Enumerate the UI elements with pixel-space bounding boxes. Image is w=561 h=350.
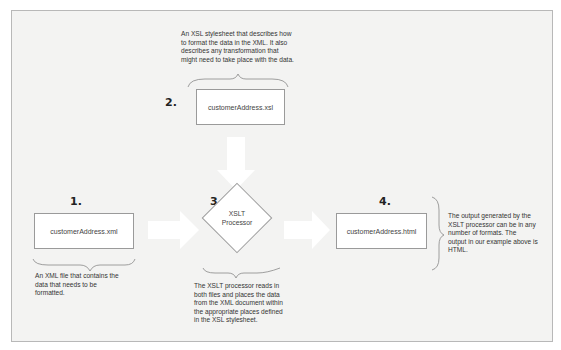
arrow-right-icon — [148, 211, 199, 249]
brace-bottom-icon — [33, 259, 135, 271]
label-line: XSLT — [206, 209, 268, 218]
desc-line: HTML. — [448, 246, 548, 255]
step-4-number: 4. — [379, 195, 391, 208]
desc-line: The output generated by the — [448, 212, 548, 221]
step-1-description: An XML file that contains the data that … — [35, 272, 145, 298]
desc-line: to format the data in the XML. It also — [181, 39, 341, 48]
brace-top-icon — [188, 74, 288, 87]
desc-line: might need to take place with the data. — [181, 56, 341, 65]
desc-line: An XML file that contains the — [35, 272, 145, 281]
brace-right-icon — [432, 197, 444, 270]
label-line: Processor — [206, 218, 268, 227]
desc-line: from the XML document within — [194, 299, 304, 308]
xsl-file-box[interactable]: customerAddress.xsl — [196, 89, 285, 125]
xsl-file-label: customerAddress.xsl — [208, 104, 273, 111]
step-2-description: An XSL stylesheet that describes how to … — [181, 30, 341, 64]
brace-bottom-icon — [203, 268, 280, 278]
desc-line: both files and places the data — [194, 291, 304, 300]
html-file-label: customerAddress.html — [347, 228, 417, 235]
step-3-description: The XSLT processor reads in both files a… — [194, 282, 304, 325]
desc-line: The XSLT processor reads in — [194, 282, 304, 291]
desc-line: XSLT processor can be in any — [448, 221, 548, 230]
desc-line: the appropriate places defined — [194, 308, 304, 317]
arrow-right-icon — [284, 211, 330, 249]
desc-line: data that needs to be — [35, 281, 145, 290]
step-2-number: 2. — [165, 96, 177, 109]
desc-line: formatted. — [35, 289, 145, 298]
step-4-description: The output generated by the XSLT process… — [448, 212, 548, 255]
desc-line: output in our example above is — [448, 238, 548, 247]
xslt-processor-label: XSLT Processor — [206, 209, 268, 227]
xml-file-label: customerAddress.xml — [50, 228, 117, 235]
html-file-box[interactable]: customerAddress.html — [336, 213, 427, 249]
desc-line: in the XSL stylesheet. — [194, 316, 304, 325]
desc-line: number of formats. The — [448, 229, 548, 238]
desc-line: An XSL stylesheet that describes how — [181, 30, 341, 39]
xml-file-box[interactable]: customerAddress.xml — [34, 213, 134, 249]
desc-line: describes any transformation that — [181, 47, 341, 56]
step-1-number: 1. — [70, 195, 82, 208]
